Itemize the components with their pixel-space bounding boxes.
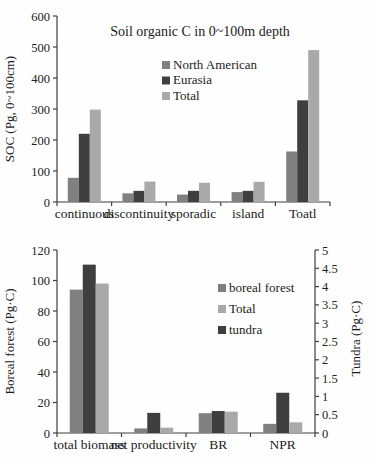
x-category-label: sporadic <box>171 206 217 221</box>
y-tick-label: 0 <box>44 196 50 210</box>
bar-north-american <box>232 192 243 202</box>
bar-eurasia <box>243 191 254 202</box>
two-panel-bar-figure: 0100200300400500600continuousdiscontinui… <box>0 0 374 467</box>
y-tick-label: 400 <box>31 72 50 86</box>
left-y-tick-label: 100 <box>31 274 50 288</box>
right-y-tick-label: 5 <box>322 244 328 258</box>
bar-eurasia <box>133 191 144 202</box>
right-y-tick-label: 1 <box>322 390 328 404</box>
bar-boreal-forest <box>134 428 147 433</box>
soc-bar-chart: 0100200300400500600continuousdiscontinui… <box>0 0 374 233</box>
bar-eurasia <box>188 191 199 202</box>
bar-total <box>144 182 155 202</box>
bar-total <box>254 182 265 202</box>
bar-north-american <box>286 151 297 202</box>
bar-total <box>199 183 210 202</box>
x-category-label: NPR <box>270 437 296 452</box>
right-y-tick-label: 0.5 <box>322 408 338 422</box>
y-tick-label: 600 <box>31 10 50 24</box>
bar-north-american <box>68 178 79 202</box>
left-y-tick-label: 120 <box>31 244 50 258</box>
bar-total <box>308 50 319 202</box>
bar-tundra <box>83 265 96 433</box>
left-y-axis-label: Boreal forest (Pg·C) <box>2 288 17 394</box>
y-tick-label: 500 <box>31 41 50 55</box>
y-tick-label: 300 <box>31 103 50 117</box>
right-y-tick-label: 4 <box>322 280 329 294</box>
bar-tundra <box>276 393 289 433</box>
left-y-tick-label: 20 <box>38 396 51 410</box>
right-y-tick-label: 3.5 <box>322 298 338 312</box>
legend-swatch <box>218 284 226 292</box>
bar-north-american <box>177 195 188 202</box>
legend-swatch <box>162 61 170 69</box>
legend-label: Eurasia <box>173 72 212 87</box>
bar-total <box>289 422 302 433</box>
right-y-tick-label: 2.5 <box>322 335 338 349</box>
legend-swatch <box>218 326 226 334</box>
legend-swatch <box>162 92 170 100</box>
legend-label: Total <box>229 301 256 316</box>
left-y-tick-label: 0 <box>44 427 50 441</box>
right-y-tick-label: 4.5 <box>322 262 338 276</box>
bar-total <box>225 412 238 433</box>
bar-north-american <box>122 193 133 202</box>
biomass-bar-chart: 02040608010012000.511.522.533.544.55tota… <box>0 233 374 467</box>
legend-label: Total <box>173 88 200 103</box>
right-y-tick-label: 1.5 <box>322 372 338 386</box>
left-y-tick-label: 60 <box>38 335 51 349</box>
bar-total <box>96 284 109 433</box>
y-tick-label: 100 <box>31 165 50 179</box>
left-y-tick-label: 40 <box>38 366 51 380</box>
bar-total <box>90 110 101 202</box>
legend-label: boreal forest <box>229 280 295 295</box>
legend-swatch <box>162 77 170 85</box>
chart-title: Soil organic C in 0~100m depth <box>110 24 290 39</box>
x-category-label: Toatl <box>289 206 317 221</box>
x-category-label: BR <box>209 437 227 452</box>
right-y-axis-label: Tundra (Pg·C) <box>348 301 363 377</box>
y-tick-label: 200 <box>31 134 50 148</box>
bar-eurasia <box>79 134 90 202</box>
left-y-tick-label: 80 <box>38 305 51 319</box>
right-y-tick-label: 0 <box>322 427 328 441</box>
bar-total <box>160 428 173 433</box>
bar-boreal-forest <box>70 290 83 433</box>
bar-eurasia <box>297 100 308 202</box>
right-y-tick-label: 3 <box>322 317 328 331</box>
bar-tundra <box>212 411 225 433</box>
legend-label: tundra <box>229 322 262 337</box>
bar-boreal-forest <box>263 424 276 433</box>
legend-label: North American <box>173 57 258 72</box>
y-axis-label: SOC (Pg, 0~100cm) <box>2 56 17 162</box>
x-category-label: discontinuity <box>104 206 175 221</box>
legend-swatch <box>218 305 226 313</box>
x-category-label: island <box>232 206 264 221</box>
right-y-tick-label: 2 <box>322 353 328 367</box>
bar-boreal-forest <box>199 413 212 433</box>
bar-tundra <box>147 413 160 433</box>
x-category-label: net productivity <box>111 437 197 452</box>
